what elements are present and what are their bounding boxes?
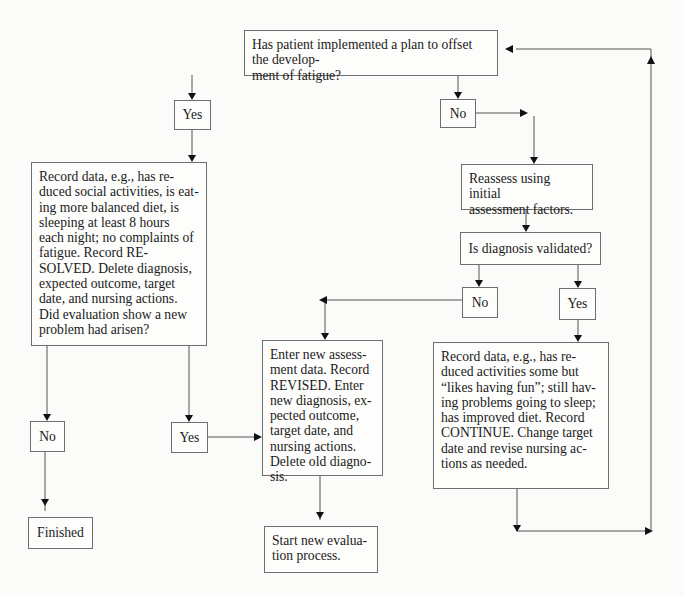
node-finished: Finished <box>28 517 93 549</box>
node-no-validated: No <box>462 287 498 318</box>
node-start-new-evaluation: Start new evalua- tion process. <box>264 526 378 573</box>
node-text: No <box>472 295 489 310</box>
node-text: Yes <box>183 107 203 122</box>
node-text: No <box>39 429 56 444</box>
node-reassess: Reassess using initial assessment factor… <box>461 164 593 210</box>
node-question-validated: Is diagnosis validated? <box>460 232 601 265</box>
node-yes-plan: Yes <box>174 100 211 130</box>
node-text: Record data, e.g., has re- duced social … <box>39 169 199 337</box>
node-no-new-problem: No <box>30 421 65 452</box>
node-record-resolved: Record data, e.g., has re- duced social … <box>31 162 207 346</box>
node-record-continue: Record data, e.g., has re- duced activit… <box>433 342 609 489</box>
node-text: Reassess using initial assessment factor… <box>469 171 585 217</box>
node-text: Start new evalua- tion process. <box>272 533 370 564</box>
node-text: Is diagnosis validated? <box>469 241 593 256</box>
node-text: Has patient implemented a plan to offset… <box>252 37 490 83</box>
node-enter-new-assessment: Enter new assess- ment data. Record REVI… <box>262 340 383 476</box>
node-question-plan: Has patient implemented a plan to offset… <box>244 30 498 76</box>
node-yes-validated: Yes <box>559 288 596 320</box>
node-text: Enter new assess- ment data. Record REVI… <box>270 347 375 485</box>
node-text: Finished <box>37 525 84 540</box>
node-text: Yes <box>568 296 588 311</box>
node-text: No <box>450 106 467 121</box>
node-yes-new-problem: Yes <box>171 422 208 453</box>
node-text: Yes <box>180 430 200 445</box>
node-text: Record data, e.g., has re- duced activit… <box>441 349 601 471</box>
node-no-plan: No <box>440 99 476 128</box>
